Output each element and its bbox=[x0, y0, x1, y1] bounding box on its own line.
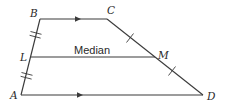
trapezoid-median-diagram: B C L M A D Median bbox=[0, 0, 227, 109]
vertex-label-b: B bbox=[29, 7, 38, 19]
vertex-label-a: A bbox=[9, 89, 18, 101]
vertex-label-m: M bbox=[157, 49, 169, 61]
parallel-arrow-icon-ad bbox=[77, 92, 83, 97]
double-tick-icon-la bbox=[21, 73, 33, 80]
parallel-arrow-icon-bc bbox=[75, 16, 81, 21]
median-label: Median bbox=[74, 44, 110, 56]
vertex-label-l: L bbox=[19, 51, 27, 63]
vertex-label-c: C bbox=[107, 4, 115, 16]
vertex-label-d: D bbox=[206, 90, 216, 102]
